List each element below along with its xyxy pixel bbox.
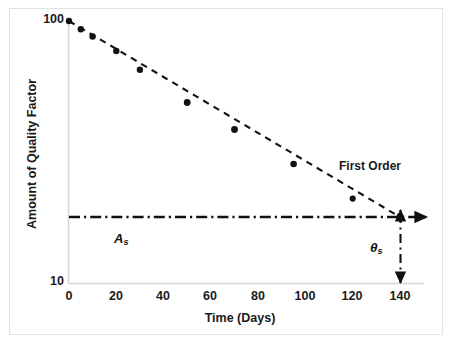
data-point <box>397 213 404 220</box>
x-axis-tick-0: 0 <box>49 289 89 303</box>
theta-annotation: θs <box>370 240 383 255</box>
data-point <box>89 33 95 39</box>
data-point <box>350 196 356 202</box>
data-point <box>66 18 72 24</box>
x-axis-tick-60: 60 <box>190 289 230 303</box>
data-point <box>113 48 119 54</box>
data-point <box>78 26 84 32</box>
data-point <box>184 99 191 106</box>
theta-subscript: s <box>378 246 383 256</box>
x-axis-tick-140: 140 <box>380 289 420 303</box>
theta-base: θ <box>370 240 378 255</box>
data-point <box>137 67 143 73</box>
x-axis-tick-20: 20 <box>96 289 136 303</box>
chart-figure: 100 10 0 20 40 60 80 100 120 140 Amount … <box>0 0 452 345</box>
y-axis-tick-100: 100 <box>28 12 64 26</box>
first-order-annotation: First Order <box>339 159 401 173</box>
data-point <box>290 161 297 168</box>
x-axis-tick-100: 100 <box>285 289 325 303</box>
x-axis-tick-120: 120 <box>332 289 372 303</box>
as-subscript: s <box>123 237 128 247</box>
y-axis-tick-10: 10 <box>28 274 64 288</box>
data-point <box>231 126 238 133</box>
x-axis-tick-40: 40 <box>143 289 183 303</box>
as-base: A <box>114 231 123 246</box>
y-axis-title: Amount of Quality Factor <box>25 59 39 249</box>
x-axis-tick-80: 80 <box>238 289 278 303</box>
x-axis-title: Time (Days) <box>68 311 412 325</box>
asymptote-annotation-as: As <box>114 231 128 246</box>
